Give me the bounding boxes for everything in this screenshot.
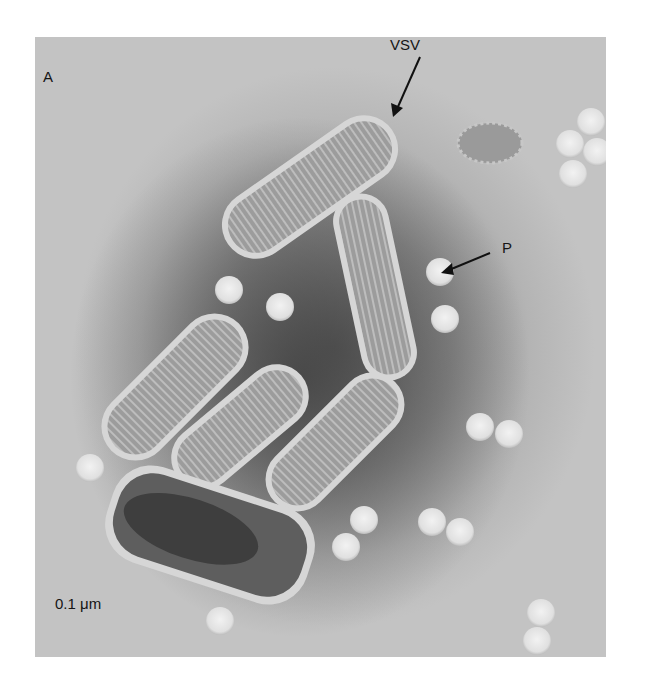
panel-label: A [43,69,53,84]
vsv-label: VSV [390,37,420,52]
particle [495,420,523,448]
particle [266,293,294,321]
particle [418,508,446,536]
particle [466,413,494,441]
micrograph-image [35,37,606,657]
particle [556,130,584,158]
particle [76,454,104,482]
particle [446,518,474,546]
scale-bar-label: 0.1 μm [55,596,101,611]
particle [431,305,459,333]
vsv-arrowhead-icon [391,103,403,117]
particle [206,607,234,635]
micrograph-panel: A VSV P 0.1 μm [35,37,606,657]
vsv-arrow [397,57,420,109]
particle [583,138,606,166]
particle [350,506,378,534]
particle [577,108,605,136]
particle [523,627,551,655]
p-label: P [502,240,512,255]
particle [559,160,587,188]
particle [215,276,243,304]
particle [527,599,555,627]
particle [332,533,360,561]
debris [458,123,522,163]
